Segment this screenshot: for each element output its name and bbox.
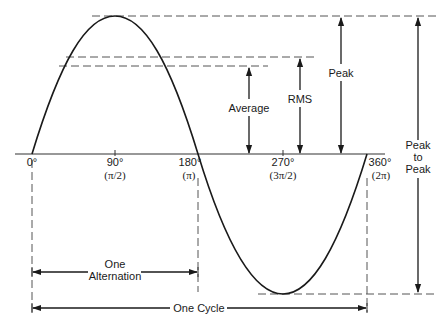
peak-to-peak-label-1: Peak <box>405 139 431 151</box>
one-cycle-label: One Cycle <box>173 302 224 314</box>
tick-sublabel-270: (3π/2) <box>270 169 297 182</box>
tick-label-0: 0° <box>27 156 38 168</box>
tick-label-180: 180° <box>179 156 202 168</box>
sine-wave-diagram: 0° 90° (π/2) 180° (π) 270° (3π/2) 360° (… <box>0 0 447 322</box>
peak-to-peak-label-3: Peak <box>405 163 431 175</box>
one-alternation-label-2: Alternation <box>89 270 142 282</box>
one-alternation-label-1: One <box>105 258 126 270</box>
peak-label: Peak <box>328 67 354 79</box>
rms-label: RMS <box>288 93 312 105</box>
tick-label-90: 90° <box>107 156 124 168</box>
tick-sublabel-180: (π) <box>183 169 196 182</box>
tick-label-270: 270° <box>272 156 295 168</box>
tick-label-360: 360° <box>369 156 392 168</box>
tick-sublabel-360: (2π) <box>372 169 391 182</box>
tick-sublabel-90: (π/2) <box>104 169 126 182</box>
sine-wave <box>32 16 367 294</box>
average-label: Average <box>229 102 270 114</box>
peak-to-peak-label-2: to <box>413 151 422 163</box>
